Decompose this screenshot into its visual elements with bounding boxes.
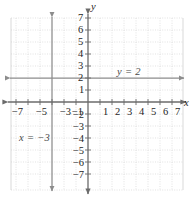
y-axis-name: y: [91, 1, 96, 12]
x-tick-label: 2: [115, 107, 120, 118]
y-tick-label: −2: [73, 110, 84, 121]
y-tick-label: 7: [78, 13, 83, 24]
y-tick-label: −7: [73, 170, 84, 181]
x-tick-label: 4: [139, 107, 144, 118]
y-tick-label: 5: [78, 37, 83, 48]
graph-canvas: [0, 0, 194, 204]
x-tick-label: 3: [127, 107, 132, 118]
y-tick-label: −4: [73, 134, 84, 145]
y-tick-label: 2: [78, 73, 83, 84]
y-tick-label: 3: [78, 61, 83, 72]
grid-horizontal-lines: [11, 18, 183, 190]
y-tick-label: −3: [73, 122, 84, 133]
x-tick-label: −3: [60, 107, 71, 118]
label-y-equals-2: y = 2: [117, 66, 141, 77]
y-tick-label: 1: [79, 85, 84, 96]
x-tick-label: 6: [163, 107, 168, 118]
x-tick-label: 5: [151, 107, 156, 118]
label-x-equals-minus-3: x = −3: [19, 132, 50, 143]
y-tick-label: −6: [73, 158, 84, 169]
x-tick-label: −7: [12, 107, 23, 118]
grid-vertical-major: [11, 18, 183, 190]
x-tick-label: 7: [175, 107, 180, 118]
y-tick-label: 6: [78, 25, 83, 36]
y-tick-label: 4: [78, 49, 83, 60]
x-tick-label: −5: [36, 107, 47, 118]
grid-vertical-lines: [16, 18, 172, 190]
x-axis-name: x: [184, 97, 189, 108]
x-tick-label: 1: [103, 107, 108, 118]
coordinate-plane-figure: −7 −5 −3 −1 1 2 3 4 5 6 7 7 6 5 4 3 2 1 …: [0, 0, 194, 204]
y-tick-label: −5: [73, 146, 84, 157]
